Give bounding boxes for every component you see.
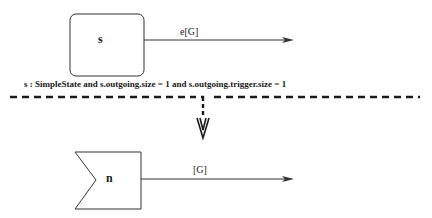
simple-state-box xyxy=(70,14,144,76)
bottom-state-name: n xyxy=(106,171,113,186)
diagram-canvas xyxy=(0,0,432,218)
top-state-name: s xyxy=(98,32,103,47)
condition-text: s : SimpleState and s.outgoing.size = 1 … xyxy=(24,79,286,89)
rewrite-arrowhead-icon xyxy=(197,118,209,138)
bottom-transition-label: [G] xyxy=(193,164,207,175)
top-transition-label: e[G] xyxy=(180,26,198,37)
rewrite-arrow-corner xyxy=(201,97,203,101)
